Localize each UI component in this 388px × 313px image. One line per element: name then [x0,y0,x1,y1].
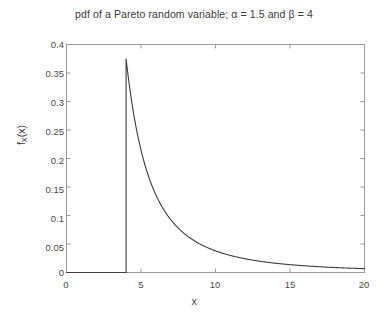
tick-marks [67,45,365,273]
pareto-pdf-curve [67,59,365,273]
plot-area [0,0,388,313]
axes-frame [67,45,365,273]
axes-box [67,45,365,273]
pareto-pdf-figure: pdf of a Pareto random variable; α = 1.5… [0,0,388,313]
